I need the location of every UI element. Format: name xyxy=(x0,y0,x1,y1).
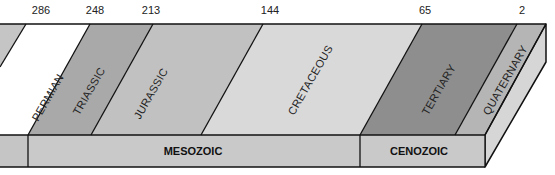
age-label-65: 65 xyxy=(419,4,431,16)
age-label-2: 2 xyxy=(519,4,525,16)
age-label-286: 286 xyxy=(32,4,50,16)
era-label-mesozoic: MESOZOIC xyxy=(164,145,223,157)
age-label-248: 248 xyxy=(86,4,104,16)
era-label-cenozoic: CENOZOIC xyxy=(390,145,448,157)
age-label-213: 213 xyxy=(142,4,160,16)
paleozoic-era-box xyxy=(0,135,28,167)
geologic-time-diagram: 286 248 213 144 65 2 PERMIAN TRIASSIC JU… xyxy=(0,0,555,175)
age-label-144: 144 xyxy=(261,4,279,16)
